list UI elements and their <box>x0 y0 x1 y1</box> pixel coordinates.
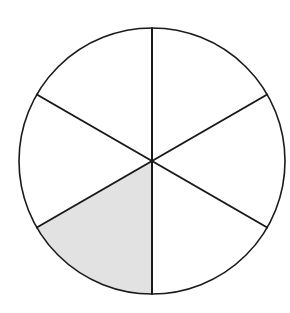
fraction-circle-diagram <box>0 0 290 313</box>
